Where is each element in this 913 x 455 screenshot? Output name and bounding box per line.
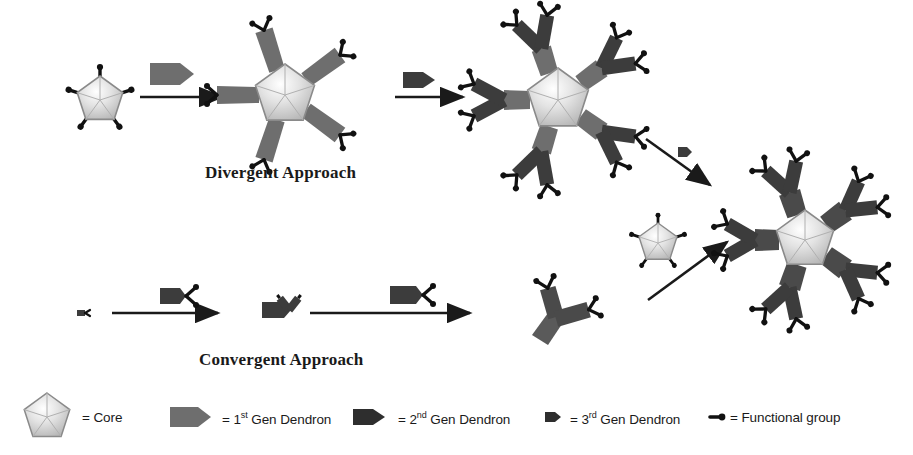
convergent-reagent-2 — [390, 283, 436, 307]
convergent-step-1-small-dendron — [262, 293, 304, 318]
convergent-step-0-monomer — [77, 310, 90, 316]
legend-gen3-text: Gen Dendron — [600, 412, 680, 427]
gen2-dendron-reagent — [403, 72, 435, 88]
legend-gen3-label: = 3rd Gen Dendron — [570, 410, 680, 427]
divergent-arrow-3-diagonal — [646, 139, 710, 185]
final-gen3-dendrimer — [710, 140, 901, 341]
legend-core-label: = Core — [82, 410, 122, 425]
legend-gen1-label: = 1st Gen Dendron — [222, 410, 331, 427]
legend-gen2-label: = 2nd Gen Dendron — [398, 410, 510, 427]
gen3-dendron-reagent — [678, 147, 692, 157]
divergent-step-2-gen2-dendrimer — [457, 0, 659, 206]
legend-gen1-sup: st — [241, 410, 248, 420]
divergent-approach-label: Divergent Approach — [205, 163, 356, 183]
legend-gen2-prefix: = 2 — [398, 412, 417, 427]
gen2-dendron-icon — [353, 409, 385, 425]
convergent-approach-label: Convergent Approach — [199, 350, 364, 370]
pentagon-core — [77, 76, 123, 119]
diagram-svg — [0, 0, 913, 455]
legend-gen1-prefix: = 1 — [222, 412, 241, 427]
gen3-dendron-icon — [545, 412, 561, 422]
pentagon-core-icon — [24, 393, 70, 436]
legend-gen2-text: Gen Dendron — [430, 412, 510, 427]
legend-gen3-sup: rd — [589, 410, 597, 420]
legend-functional-group-label: = Functional group — [730, 410, 840, 425]
legend-gen2-sup: nd — [417, 410, 427, 420]
convergent-step-2-large-dendron — [532, 272, 604, 345]
divergent-step-0-core — [65, 64, 136, 131]
gen1-dendron-icon — [170, 407, 211, 427]
divergent-step-1-gen1-dendrimer — [204, 14, 358, 175]
functional-group-icon — [710, 414, 725, 421]
gen1-dendron-reagent — [150, 63, 194, 85]
figure-canvas: Divergent Approach Convergent Approach =… — [0, 0, 913, 455]
legend-gen3-prefix: = 3 — [570, 412, 589, 427]
core-reagent — [628, 213, 687, 269]
convergent-reagent-1 — [160, 284, 199, 308]
legend-gen1-text: Gen Dendron — [251, 412, 331, 427]
